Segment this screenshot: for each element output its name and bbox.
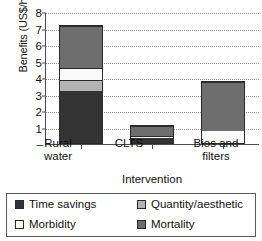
gridline-8 xyxy=(46,13,259,14)
y-tickmark-2 xyxy=(42,112,46,113)
y-tickmark-3 xyxy=(42,95,46,96)
legend-swatch-icon xyxy=(137,220,146,229)
plot-area: 8 7 6 5 4 3 2 1 – xyxy=(45,13,259,145)
legend-swatch-icon xyxy=(15,200,24,209)
x-axis-label-line: filters xyxy=(173,150,259,163)
bar-segment-mortality xyxy=(202,82,244,132)
chart-legend: Time savings Quantity/aesthetic Morbidit… xyxy=(6,193,256,237)
legend-label: Morbidity xyxy=(29,218,76,230)
chart-figure: Benefits (US$/hh-month 8 7 6 5 4 3 2 1 – xyxy=(0,0,262,241)
legend-swatch-icon xyxy=(137,200,146,209)
legend-item-mortality[interactable]: Mortality xyxy=(137,218,194,230)
bar-segment-mortality xyxy=(60,26,102,67)
bar-segment-quantity-aesthetic xyxy=(60,80,102,91)
y-tick-label-6: 6 xyxy=(36,40,42,52)
legend-label: Quantity/aesthetic xyxy=(151,198,243,210)
x-axis-label-clts: CLTS xyxy=(86,137,172,150)
y-tickmark-1 xyxy=(42,128,46,129)
legend-label: Mortality xyxy=(151,218,194,230)
y-tick-label-8: 8 xyxy=(36,7,42,19)
bar-rural-water[interactable] xyxy=(59,25,103,144)
y-axis-title: Benefits (US$/hh-month xyxy=(17,0,29,91)
bar-segment-mortality xyxy=(131,126,173,136)
y-tickmark-4 xyxy=(42,79,46,80)
bar-segment-morbidity xyxy=(60,68,102,80)
legend-item-time-savings[interactable]: Time savings xyxy=(15,198,137,210)
x-axis-label-bios-and-filters: Bios and filters xyxy=(173,137,259,163)
bar-bios-and-filters[interactable] xyxy=(201,81,245,145)
y-tickmark-6 xyxy=(42,46,46,47)
x-axis-title: Intervention xyxy=(45,173,259,185)
legend-item-morbidity[interactable]: Morbidity xyxy=(15,218,137,230)
x-axis-label-line: CLTS xyxy=(86,137,172,150)
y-tickmark-5 xyxy=(42,62,46,63)
y-tick-label-3: 3 xyxy=(36,90,42,102)
legend-item-quantity-aesthetic[interactable]: Quantity/aesthetic xyxy=(137,198,243,210)
y-tickmark-7 xyxy=(42,29,46,30)
legend-label: Time savings xyxy=(29,198,96,210)
x-axis-label-line: water xyxy=(15,150,101,163)
y-tickmark-8 xyxy=(42,13,46,14)
x-axis-label-line: Bios and xyxy=(173,137,259,150)
y-tick-label-1: 1 xyxy=(36,123,42,135)
legend-row: Morbidity Mortality xyxy=(15,218,249,238)
legend-swatch-icon xyxy=(15,220,24,229)
y-tick-label-5: 5 xyxy=(36,57,42,69)
y-tick-label-7: 7 xyxy=(36,24,42,36)
legend-row: Time savings Quantity/aesthetic xyxy=(15,198,249,218)
y-tick-label-4: 4 xyxy=(36,73,42,85)
bar-segment-time-savings xyxy=(60,91,102,143)
y-tick-label-2: 2 xyxy=(36,106,42,118)
